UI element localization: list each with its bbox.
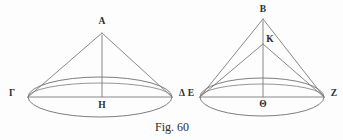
- label-point-h: H: [98, 100, 106, 110]
- left-cone-slant-a-delta: [102, 33, 172, 97]
- label-point-delta: Δ: [179, 88, 185, 98]
- right-cone-line-k-z: [263, 44, 324, 97]
- label-point-gamma: Γ: [9, 88, 15, 98]
- figure-drawing: A Γ Δ H B K E: [0, 0, 343, 140]
- label-point-a: A: [99, 16, 106, 26]
- right-cone-back-arc: [200, 84, 324, 97]
- left-cone-slant-a-gamma: [28, 33, 102, 97]
- right-cone-group: B K E Θ Z: [188, 4, 337, 116]
- right-cone-line-k-e: [200, 44, 263, 97]
- figure-container: A Γ Δ H B K E: [0, 0, 343, 140]
- left-cone-back-arc: [28, 83, 172, 97]
- figure-caption: Fig. 60: [155, 120, 189, 134]
- right-cone-slant-b-z: [263, 19, 324, 97]
- label-point-e: E: [188, 88, 194, 98]
- label-point-k: K: [266, 34, 274, 44]
- label-point-z: Z: [331, 88, 337, 98]
- left-cone-group: A Γ Δ H: [9, 16, 185, 117]
- label-point-theta: Θ: [259, 99, 266, 109]
- label-point-b: B: [260, 4, 267, 14]
